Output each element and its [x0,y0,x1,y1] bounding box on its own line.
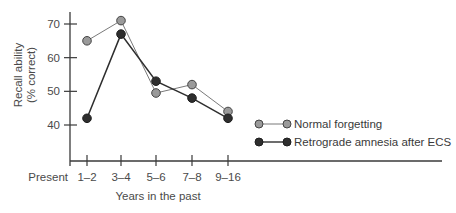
data-point [224,114,233,123]
x-tick-label: 5–6 [146,171,165,183]
x-axis-title: Years in the past [115,190,201,202]
line-chart: 40506070 1–23–45–67–89–16 Present Years … [0,0,456,213]
x-tick-label: 9–16 [215,171,241,183]
svg-text:(% correct): (% correct) [25,47,37,103]
x-origin-label: Present [28,171,68,183]
gray-circle-marker-icon [255,120,263,128]
svg-text:Recall ability: Recall ability [12,42,24,107]
data-point [117,30,126,39]
y-tick-label: 40 [47,119,60,131]
dark-circle-marker-icon [283,138,291,146]
series-retrograde-amnesia [87,34,228,118]
data-point [152,77,161,86]
dark-circle-marker-icon [255,138,263,146]
data-point [188,94,197,103]
y-axis-title: Recall ability (% correct) [12,42,37,107]
legend-label: Retrograde amnesia after ECS [294,136,452,148]
data-point [152,89,161,98]
y-ticks: 40506070 [47,18,77,131]
y-tick-label: 60 [47,52,60,64]
gray-circle-marker-icon [283,120,291,128]
legend-item-normal-forgetting: Normal forgetting [255,118,382,130]
x-ticks: 1–23–45–67–89–16 [77,155,240,183]
x-tick-label: 7–8 [182,171,201,183]
data-point [188,80,197,89]
y-tick-label: 50 [47,85,60,97]
series-normal-forgetting-markers [83,16,233,116]
data-point [83,114,92,123]
y-tick-label: 70 [47,18,60,30]
series-layer [83,16,233,122]
x-tick-label: 3–4 [111,171,131,183]
legend-item-retrograde-amnesia: Retrograde amnesia after ECS [255,136,452,148]
x-tick-label: 1–2 [77,171,96,183]
data-point [83,37,92,46]
data-point [117,16,126,25]
legend: Normal forgetting Retrograde amnesia aft… [255,118,452,148]
legend-label: Normal forgetting [294,118,382,130]
